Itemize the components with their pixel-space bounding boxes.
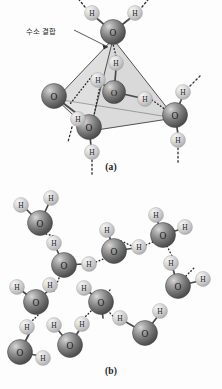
atom-hydrogen: H	[71, 112, 86, 127]
atom-label: H	[89, 148, 95, 157]
atom-hydrogen: H	[153, 304, 168, 319]
atom-label: H	[24, 323, 30, 332]
atom-label: H	[175, 136, 181, 145]
atom-hydrogen: H	[82, 257, 97, 272]
atom-hydrogen: H	[128, 6, 143, 21]
atom-label: H	[157, 307, 163, 316]
atom-label: O	[142, 329, 149, 339]
atom-label: H	[180, 88, 186, 97]
atom-oxygen: O	[101, 20, 126, 45]
atom-label: H	[47, 281, 53, 290]
atom-label: H	[182, 223, 188, 232]
atom-label: H	[200, 275, 206, 284]
atom-hydrogen: H	[176, 85, 191, 100]
atom-oxygen: O	[24, 290, 49, 315]
caption-panel-a: (a)	[0, 162, 222, 172]
hydrogen-bonds-b	[32, 234, 194, 321]
atom-label: H	[51, 321, 57, 330]
atom-hydrogen: H	[47, 236, 62, 251]
atom-label: O	[17, 348, 24, 358]
atom-label: H	[142, 95, 148, 104]
atom-label: H	[18, 201, 24, 210]
atom-label: O	[51, 92, 58, 102]
atom-hydrogen: H	[138, 92, 153, 107]
atom-label: O	[160, 231, 167, 241]
atom-oxygen: O	[102, 239, 127, 264]
atom-label: H	[153, 211, 159, 220]
atom-oxygen: O	[28, 211, 53, 236]
atom-label: O	[110, 28, 117, 38]
atom-hydrogen: H	[178, 220, 193, 235]
atom-oxygen: O	[103, 81, 126, 104]
caption-panel-b: (b)	[0, 366, 222, 376]
covalent-bonds-b	[20, 203, 199, 356]
hydrogen-bond-annotation-label: 수소 결합	[26, 25, 57, 36]
atom-label: O	[172, 111, 179, 121]
atom-label: H	[168, 259, 174, 268]
oxygen-atoms-b: O O O O O O O	[8, 211, 191, 365]
atom-hydrogen: H	[10, 280, 25, 295]
atom-hydrogen: H	[85, 145, 100, 160]
atom-hydrogen: H	[100, 223, 115, 238]
atom-hydrogen: H	[196, 272, 211, 287]
atom-label: O	[37, 219, 44, 229]
atom-hydrogen: H	[36, 351, 51, 366]
atom-hydrogen: H	[85, 6, 100, 21]
atom-hydrogen: H	[164, 256, 179, 271]
atom-hydrogen: H	[44, 191, 59, 206]
atom-label: H	[104, 226, 110, 235]
atom-label: H	[86, 260, 92, 269]
atom-oxygen: O	[8, 340, 33, 365]
atom-hydrogen: H	[75, 317, 90, 332]
atom-label: H	[89, 9, 95, 18]
atom-hydrogen: H	[132, 240, 147, 255]
atom-label: H	[117, 314, 123, 323]
atom-label: H	[48, 194, 54, 203]
atom-hydrogen: H	[149, 208, 164, 223]
atom-label: H	[75, 115, 81, 124]
atom-label: O	[111, 88, 118, 98]
atom-label: O	[33, 298, 40, 308]
atom-label: H	[132, 9, 138, 18]
atom-hydrogen: H	[109, 56, 124, 71]
atom-oxygen: O	[58, 333, 83, 358]
atom-hydrogen: H	[47, 318, 62, 333]
atom-label: H	[95, 76, 101, 85]
atom-label: H	[51, 239, 57, 248]
atom-hydrogen: H	[14, 198, 29, 213]
atom-label: O	[98, 298, 105, 308]
hydrogen-atoms-b: H H H H H H H	[10, 191, 211, 366]
atom-oxygen: O	[42, 84, 67, 109]
atom-label: H	[81, 284, 87, 293]
atom-label: O	[61, 261, 68, 271]
atom-label: H	[79, 320, 85, 329]
atom-oxygen: O	[52, 253, 77, 278]
figure-root: O O O O O H	[0, 0, 222, 389]
atom-label: H	[40, 354, 46, 363]
atom-oxygen: O	[151, 223, 176, 248]
atom-hydrogen: H	[77, 281, 92, 296]
atom-oxygen: O	[89, 290, 114, 315]
atom-label: H	[113, 59, 119, 68]
atom-label: O	[86, 123, 93, 133]
atom-oxygen: O	[133, 321, 158, 346]
atom-hydrogen: H	[43, 278, 58, 293]
atom-hydrogen: H	[91, 73, 106, 88]
atom-hydrogen: H	[20, 320, 35, 335]
atom-oxygen: O	[166, 274, 191, 299]
atom-label: H	[14, 283, 20, 292]
atom-oxygen: O	[163, 103, 188, 128]
atom-hydrogen: H	[113, 311, 128, 326]
atom-label: O	[67, 341, 74, 351]
atom-hydrogen: H	[171, 133, 186, 148]
atom-label: H	[136, 243, 142, 252]
atom-label: O	[111, 247, 118, 257]
atom-label: O	[175, 282, 182, 292]
